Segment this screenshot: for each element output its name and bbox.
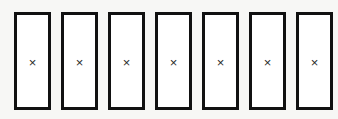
rectangle-cell[interactable]: ×	[249, 12, 286, 110]
rectangle-cell[interactable]: ×	[108, 12, 145, 110]
cross-mark-icon: ×	[217, 56, 225, 69]
cross-mark-icon: ×	[264, 56, 272, 69]
cross-mark-icon: ×	[311, 56, 319, 69]
rectangle-cell[interactable]: ×	[14, 12, 51, 110]
rectangle-row: × × × × × × ×	[14, 12, 333, 110]
rectangle-cell[interactable]: ×	[202, 12, 239, 110]
cross-mark-icon: ×	[123, 56, 131, 69]
diagram-canvas: × × × × × × ×	[0, 0, 338, 119]
cross-mark-icon: ×	[170, 56, 178, 69]
rectangle-cell[interactable]: ×	[296, 12, 333, 110]
rectangle-cell[interactable]: ×	[61, 12, 98, 110]
rectangle-cell[interactable]: ×	[155, 12, 192, 110]
cross-mark-icon: ×	[76, 56, 84, 69]
cross-mark-icon: ×	[29, 56, 37, 69]
